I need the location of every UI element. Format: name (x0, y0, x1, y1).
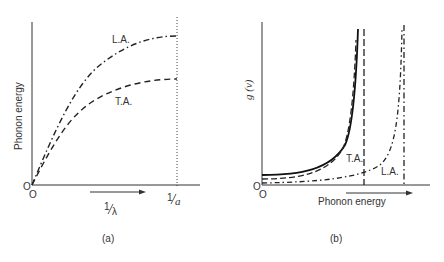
la-label: L.A. (381, 166, 399, 177)
svg-text:λ: λ (112, 206, 117, 217)
ta-dispersion-curve (32, 79, 177, 185)
y-axis-label: g (ν) (242, 79, 255, 100)
svg-text:1: 1 (104, 201, 110, 212)
ta-dos-curve (262, 40, 356, 179)
x-axis-label: 1 λ (104, 201, 117, 217)
panel-b: T.A. L.A. g (ν) O O Phonon energy (b) (242, 22, 430, 244)
figure: L.A. T.A. Phonon energy O O 1 λ 1 a (a) (0, 0, 444, 262)
panel-a: L.A. T.A. Phonon energy O O 1 λ 1 a (a) (13, 17, 200, 244)
arrow-head-icon (406, 191, 413, 196)
x-axis-label: Phonon energy (318, 196, 386, 207)
la-label: L.A. (112, 34, 130, 45)
ta-label: T.A. (115, 96, 132, 107)
origin-x-label: O (259, 189, 267, 200)
la-dispersion-curve (32, 36, 177, 185)
total-dos-curve (262, 29, 358, 175)
caption-b: (b) (330, 233, 342, 244)
y-axis-label: Phonon energy (13, 82, 24, 150)
svg-text:a: a (175, 195, 181, 207)
caption-a: (a) (102, 233, 114, 244)
arrow-head-icon (139, 190, 146, 195)
ta-label: T.A. (346, 153, 363, 164)
origin-x-label: O (29, 189, 37, 200)
zone-boundary-label: 1 a (167, 192, 181, 207)
